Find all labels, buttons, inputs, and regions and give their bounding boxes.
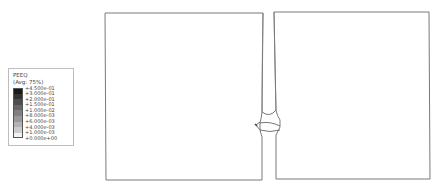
left-plate bbox=[105, 13, 263, 180]
right-plate bbox=[274, 12, 430, 179]
model-viewport bbox=[0, 0, 439, 190]
gap-edge-right bbox=[274, 12, 276, 110]
